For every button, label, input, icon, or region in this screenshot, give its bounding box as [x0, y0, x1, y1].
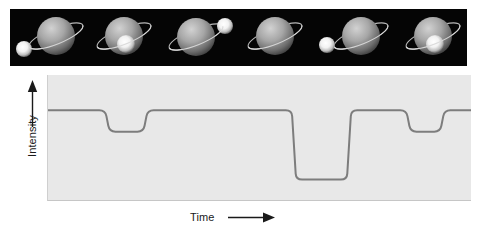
- intensity-curve-path: [48, 110, 471, 179]
- orbit-frame-2: [86, 9, 162, 66]
- right-arrow-icon: [228, 211, 276, 224]
- x-axis-label: Time: [190, 211, 214, 223]
- x-axis: Time: [190, 207, 276, 227]
- orbit-frame-6: [391, 9, 467, 66]
- intensity-curve: [48, 75, 471, 201]
- y-axis: Intensity: [18, 78, 48, 200]
- orbit-phase-sequence: [10, 9, 467, 66]
- transit-light-curve-figure: Intensity Time: [0, 0, 489, 234]
- y-axis-label: Intensity: [26, 100, 38, 172]
- orbit-frame-5: [315, 9, 391, 66]
- light-curve-plot-area: [47, 75, 471, 201]
- orbit-frame-4: [239, 9, 315, 66]
- orbit-frame-1: [10, 9, 86, 66]
- orbit-frame-3: [162, 9, 238, 66]
